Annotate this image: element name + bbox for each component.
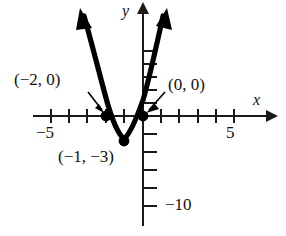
- point-left-intercept: [101, 111, 112, 122]
- point-vertex: [119, 136, 130, 147]
- label-origin-intercept: (0, 0): [168, 76, 205, 93]
- coordinate-plane-svg: [0, 0, 286, 236]
- x-axis-label: x: [253, 92, 260, 108]
- x-tick-label-negative-five: −5: [36, 124, 54, 141]
- y-axis-arrowhead: [137, 2, 149, 14]
- label-left-intercept: (−2, 0): [14, 71, 60, 88]
- x-axis: [33, 109, 278, 123]
- x-axis-arrowhead: [266, 110, 278, 122]
- x-tick-label-positive-five: 5: [226, 124, 235, 141]
- y-axis-label: y: [122, 3, 129, 19]
- graph-figure: (−2, 0) (0, 0) (−1, −3) −5 5 −10 y x: [0, 0, 286, 236]
- left-branch-arrowhead: [76, 8, 92, 30]
- label-vertex: (−1, −3): [58, 148, 114, 165]
- y-tick-label-negative-ten: −10: [165, 196, 192, 213]
- leader-arrowhead-left-intercept: [95, 104, 104, 113]
